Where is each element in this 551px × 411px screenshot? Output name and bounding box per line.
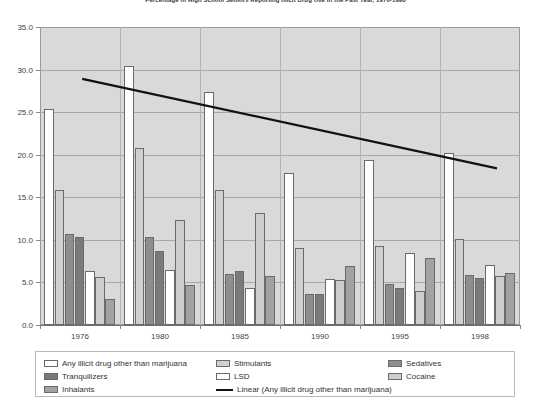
y-tick-label: 20.0 <box>17 150 33 159</box>
legend-item[interactable]: Sedatives <box>388 358 441 369</box>
legend-swatch <box>388 373 402 380</box>
legend-label: Tranquilizers <box>62 372 108 381</box>
chart-title: Percentage of High School Seniors Report… <box>0 0 551 4</box>
legend-item[interactable]: Inhalants <box>44 384 94 395</box>
x-tick-mark <box>280 325 281 329</box>
x-tick-label: 1995 <box>391 332 409 341</box>
y-tick-label: 0.0 <box>22 321 33 330</box>
legend-item[interactable]: Any illicit drug other than marijuana <box>44 358 187 369</box>
legend-swatch <box>44 360 58 367</box>
x-tick-mark <box>520 325 521 329</box>
x-tick-mark <box>40 325 41 329</box>
y-tick-label: 35.0 <box>17 23 33 32</box>
legend-label: Inhalants <box>62 385 94 394</box>
x-tick-mark <box>200 325 201 329</box>
x-axis-labels: 197619801985199019951998 <box>40 330 520 344</box>
y-axis: 0.05.010.015.020.025.030.035.0 <box>0 27 40 325</box>
legend-item[interactable]: Cocaine <box>388 371 435 382</box>
x-tick-label: 1980 <box>151 332 169 341</box>
x-tick-mark <box>120 325 121 329</box>
y-tick-label: 10.0 <box>17 235 33 244</box>
legend-label: Cocaine <box>406 372 435 381</box>
x-tick-mark <box>360 325 361 329</box>
legend-label: LSD <box>234 372 250 381</box>
legend-label: Linear (Any illicit drug other than mari… <box>237 385 392 394</box>
trendline <box>40 27 520 325</box>
y-tick-label: 30.0 <box>17 65 33 74</box>
legend-swatch <box>44 386 58 393</box>
legend-label: Any illicit drug other than marijuana <box>62 359 187 368</box>
legend-swatch <box>216 373 230 380</box>
legend-label: Stimulants <box>234 359 271 368</box>
y-tick-label: 15.0 <box>17 193 33 202</box>
legend-item[interactable]: Linear (Any illicit drug other than mari… <box>216 384 392 395</box>
legend-swatch <box>44 373 58 380</box>
legend-swatch <box>216 360 230 367</box>
legend-label: Sedatives <box>406 359 441 368</box>
plot-area <box>40 27 520 325</box>
chart-legend: Any illicit drug other than marijuanaSti… <box>35 351 515 397</box>
y-tick-label: 25.0 <box>17 108 33 117</box>
x-tick-label: 1990 <box>311 332 329 341</box>
x-tick-label: 1998 <box>471 332 489 341</box>
x-tick-mark <box>440 325 441 329</box>
x-tick-label: 1976 <box>71 332 89 341</box>
legend-item[interactable]: Tranquilizers <box>44 371 108 382</box>
legend-item[interactable]: Stimulants <box>216 358 271 369</box>
y-tick-label: 5.0 <box>22 278 33 287</box>
x-tick-label: 1985 <box>231 332 249 341</box>
chart-container: Percentage of High School Seniors Report… <box>0 0 551 411</box>
legend-line-marker <box>216 389 233 391</box>
legend-swatch <box>388 360 402 367</box>
legend-item[interactable]: LSD <box>216 371 250 382</box>
